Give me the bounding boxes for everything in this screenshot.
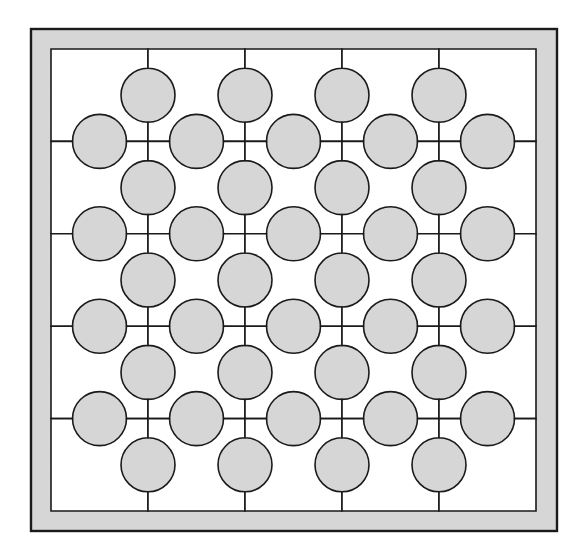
figure-root: Perforated square-tile lattice pattern A… [0,0,587,556]
tile-pattern-figure: Perforated square-tile lattice pattern A… [0,0,587,556]
